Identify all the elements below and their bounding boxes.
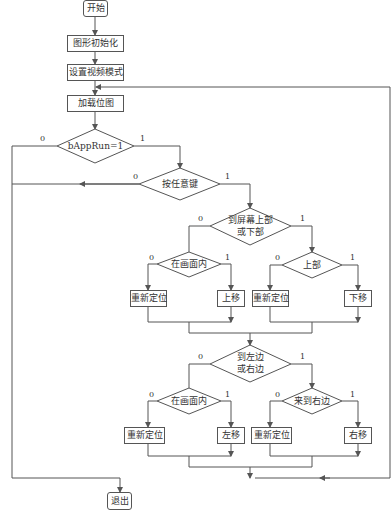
inscreen1-yes-label: 1 <box>225 253 230 262</box>
set-video-mode-node: 设置视频模式 <box>67 64 124 81</box>
anykey-no-label: 0 <box>133 172 138 181</box>
apprun-decision: bAppRun=1 <box>57 139 134 153</box>
anykey-yes-label: 1 <box>225 172 230 181</box>
move-right-node: 右移 <box>344 427 372 444</box>
in-screen-decision-1: 在画面内 <box>157 258 221 270</box>
start-node: 开始 <box>83 0 108 17</box>
anykey-decision: 按任意键 <box>139 177 220 191</box>
top-bottom-decision-line1: 到屏幕上部 <box>210 215 291 226</box>
inscreen2-yes-label: 1 <box>225 390 230 399</box>
right-yes-label: 1 <box>350 390 355 399</box>
inscreen2-no-label: 0 <box>149 390 154 399</box>
top-no-label: 0 <box>275 253 280 262</box>
right-decision: 来到右边 <box>282 395 342 407</box>
move-down-node: 下移 <box>344 290 372 307</box>
top-bottom-decision-line2: 或下部 <box>210 227 291 238</box>
reposition-node-4: 重新定位 <box>251 427 292 444</box>
reposition-node-3: 重新定位 <box>124 427 165 444</box>
topbottom-yes-label: 1 <box>300 214 305 223</box>
load-bitmap-node: 加载位图 <box>67 95 124 112</box>
apprun-yes-label: 1 <box>140 134 145 143</box>
init-graphics-node: 图形初始化 <box>67 35 124 52</box>
top-decision: 上部 <box>282 259 342 271</box>
exit-node: 退出 <box>107 492 132 510</box>
move-left-node: 左移 <box>217 427 245 444</box>
left-right-decision-line2: 或右边 <box>210 364 291 375</box>
leftright-no-label: 0 <box>198 352 203 361</box>
in-screen-decision-2: 在画面内 <box>157 395 221 407</box>
topbottom-no-label: 0 <box>198 214 203 223</box>
apprun-no-label: 0 <box>40 134 45 143</box>
left-right-decision-line1: 到左边 <box>210 352 291 363</box>
leftright-yes-label: 1 <box>300 352 305 361</box>
reposition-node-1: 重新定位 <box>130 290 167 307</box>
top-yes-label: 1 <box>350 253 355 262</box>
move-up-node: 上移 <box>217 290 245 307</box>
inscreen1-no-label: 0 <box>149 253 154 262</box>
right-no-label: 0 <box>275 390 280 399</box>
reposition-node-2: 重新定位 <box>252 290 289 307</box>
